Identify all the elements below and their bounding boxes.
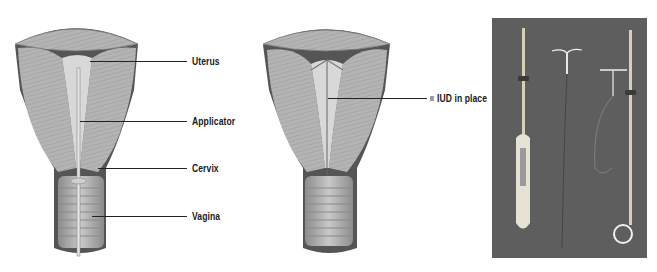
bullet-marker-icon: [430, 96, 434, 101]
panel-photo: [492, 18, 647, 258]
leader-vagina: [92, 216, 187, 217]
uterus-iud-illustration: [245, 0, 492, 272]
panel-insertion: Uterus Applicator Cervix Vagina: [0, 0, 245, 272]
label-vagina: Vagina: [192, 210, 220, 222]
leader-uterus: [90, 61, 187, 62]
leader-iud-in-place: [328, 98, 427, 99]
label-iud-in-place: IUD in place: [430, 92, 487, 104]
iud-photo: [492, 18, 647, 258]
label-applicator: Applicator: [192, 115, 235, 127]
leader-cervix: [98, 168, 187, 169]
label-iud-in-place-text: IUD in place: [437, 92, 487, 104]
leader-applicator: [80, 121, 187, 122]
panel-iud-in-place: IUD in place: [245, 0, 492, 272]
label-uterus: Uterus: [192, 55, 220, 67]
uterus-applicator-illustration: [0, 0, 245, 272]
label-cervix: Cervix: [192, 162, 219, 174]
